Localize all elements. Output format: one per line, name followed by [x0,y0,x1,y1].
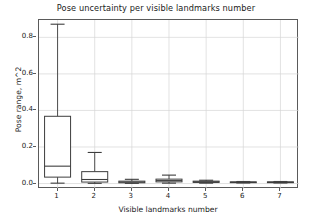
box-plot-item [45,24,71,183]
box-body [82,172,108,182]
y-axis-tick-label: 0.0 [22,179,33,187]
x-axis-tick-label: 4 [166,192,170,200]
x-axis-tick-label: 6 [240,192,244,200]
y-axis-tickmark [33,73,36,74]
box-plot-item [193,180,219,183]
x-axis-tick-labels: 1234567 [38,192,298,204]
box-plot-item [119,179,145,183]
plot-area [38,19,298,188]
y-axis-tick-label: 0.2 [22,142,33,150]
x-axis-tick-label: 1 [54,192,58,200]
x-axis-label: Visible landmarks number [38,205,298,214]
x-axis-tick-label: 3 [129,192,133,200]
y-axis-tickmark [33,109,36,110]
y-axis-tick-label: 0.4 [22,105,33,113]
x-axis-tick-label: 7 [277,192,281,200]
x-axis-tickmark [242,188,243,191]
box-plot-item [156,175,182,183]
boxplot-series [39,20,299,189]
chart-figure: Pose uncertainty per visible landmarks n… [0,0,312,222]
y-axis-tick-label: 0.8 [22,32,33,40]
box-body [45,116,71,177]
x-axis-tickmark [131,188,132,191]
x-axis-tickmark [57,188,58,191]
box-plot-item [82,152,108,183]
y-axis-tickmark [33,183,36,184]
box-plot-item [267,182,293,183]
y-axis-tick-label: 0.6 [22,69,33,77]
y-axis-tickmark [33,36,36,37]
x-axis-tick-label: 5 [203,192,207,200]
chart-title: Pose uncertainty per visible landmarks n… [0,3,312,13]
x-axis-tickmark [168,188,169,191]
y-axis-tickmark [33,146,36,147]
x-axis-tick-label: 2 [91,192,95,200]
y-axis-tick-labels: 0.00.20.40.60.8 [0,19,33,188]
x-axis-tickmark [279,188,280,191]
x-axis-tickmark [205,188,206,191]
x-axis-tickmark [94,188,95,191]
box-plot-item [230,182,256,183]
